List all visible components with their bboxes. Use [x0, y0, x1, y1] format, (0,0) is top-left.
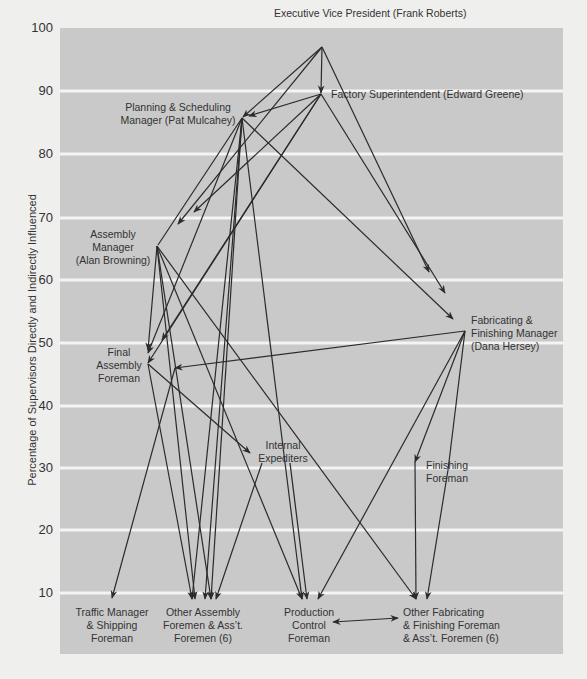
y-tick-label: 100	[31, 20, 53, 35]
node-finishing: FinishingForeman	[426, 459, 468, 484]
node-label: Executive Vice President (Frank Roberts)	[274, 7, 466, 19]
node-evp: Executive Vice President (Frank Roberts)	[274, 7, 466, 19]
node-planning: Planning & SchedulingManager (Pat Mulcah…	[121, 101, 236, 126]
node-internal-exp: InternalExpediters	[258, 439, 308, 464]
y-tick-label: 80	[39, 146, 53, 161]
y-tick-label: 90	[39, 83, 53, 98]
y-tick-label: 10	[39, 585, 53, 600]
node-label: Factory Superintendent (Edward Greene)	[331, 88, 524, 100]
y-tick-label: 50	[39, 335, 53, 350]
node-label: Other AssemblyForemen & Ass’t.Foremen (6…	[163, 606, 243, 644]
node-other-assembly: Other AssemblyForemen & Ass’t.Foremen (6…	[163, 606, 243, 644]
y-axis-title: Percentage of Supervisors Directly and I…	[26, 194, 38, 486]
y-tick-label: 20	[39, 522, 53, 537]
influence-diagram: 100908070605040302010 Percentage of Supe…	[0, 0, 587, 679]
node-label: InternalExpediters	[258, 439, 308, 464]
node-factory: Factory Superintendent (Edward Greene)	[331, 88, 524, 100]
y-tick-label: 40	[39, 398, 53, 413]
y-tick-label: 60	[39, 272, 53, 287]
node-label: FinishingForeman	[426, 459, 468, 484]
y-tick-label: 30	[39, 460, 53, 475]
y-tick-label: 70	[39, 210, 53, 225]
node-label: Planning & SchedulingManager (Pat Mulcah…	[121, 101, 236, 126]
